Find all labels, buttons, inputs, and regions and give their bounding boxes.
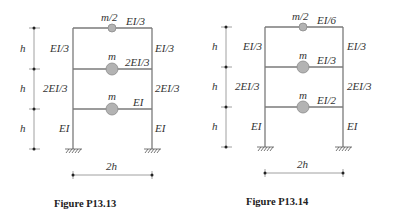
dimension-ticks [29,27,40,151]
mass-label: m/2 [292,10,309,22]
fixed-support-icon [335,147,352,151]
right-column-label: EI [346,120,359,132]
mass-label: m [108,50,116,62]
beam-stiffness-label: EI [132,96,145,108]
figure-caption: Figure P13.13 [54,198,116,209]
frames-diagram: h h h m/2 m m EI/3 2EI/3 EI EI/3 2EI/3 E… [0,0,393,217]
width-label: 2h [106,160,118,172]
width-label: 2h [297,158,309,170]
fixed-support-icon [144,149,161,153]
story-height-label: h [212,120,218,132]
right-column-label: EI [154,122,167,134]
beam-stiffness-label: EI/3 [316,54,336,66]
right-column-label: EI/3 [346,40,366,52]
beam-stiffness-label: EI/3 [125,15,145,27]
left-column-label: 2EI/3 [43,82,68,94]
first-floor-mass [297,101,309,113]
dimension-ticks [221,26,232,149]
left-column-label: EI/3 [242,40,262,52]
story-height-label: h [20,42,26,54]
left-column-label: EI [250,120,263,132]
story-height-label: h [212,40,218,52]
story-height-label: h [20,122,26,134]
roof-mass [108,24,116,32]
fixed-support-icon [65,149,82,153]
beam-stiffness-label: EI/6 [316,14,336,26]
right-column-label: 2EI/3 [347,80,372,92]
left-column-label: EI/3 [49,42,69,54]
left-column-label: 2EI/3 [235,80,260,92]
figure-p13-13: h h h m/2 m m EI/3 2EI/3 EI EI/3 2EI/3 E… [20,11,180,209]
beam-stiffness-label: EI/2 [316,94,336,106]
right-column-label: 2EI/3 [155,82,180,94]
first-floor-mass [106,103,118,115]
beam-stiffness-label: 2EI/3 [125,56,150,68]
mass-label: m [108,90,116,102]
mass-label: m/2 [101,11,118,23]
figure-p13-14: h h h m/2 m m EI/6 EI/3 EI/2 EI/3 2EI/3 … [212,10,372,207]
second-floor-mass [106,63,118,75]
mass-label: m [299,49,307,61]
roof-mass [299,23,307,31]
second-floor-mass [297,61,309,73]
left-column-label: EI [58,122,71,134]
story-height-label: h [20,82,26,94]
right-column-label: EI/3 [154,42,174,54]
fixed-support-icon [257,147,274,151]
story-height-label: h [212,80,218,92]
mass-label: m [299,89,307,101]
figure-caption: Figure P13.14 [246,196,309,207]
